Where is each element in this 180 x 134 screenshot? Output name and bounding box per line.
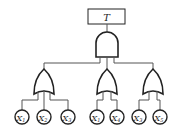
leaf-node: X1 <box>15 110 29 124</box>
leaf-node: X5 <box>153 110 167 124</box>
leaf-node: X2 <box>37 110 51 124</box>
leaf-node: X3 <box>61 110 75 124</box>
fault-tree-diagram: T X1 X2 X3 X1 <box>0 0 180 134</box>
leaf-node: X1 <box>90 110 104 124</box>
or-gate-middle <box>97 69 117 94</box>
or-gate-legs <box>22 90 160 110</box>
and-gate-icon <box>96 32 118 57</box>
or-gate-icon <box>143 69 163 94</box>
leaf-node: X3 <box>132 110 146 124</box>
and-gate-legs <box>44 57 153 70</box>
or-gate-icon <box>97 69 117 94</box>
or-gate-right <box>143 69 163 94</box>
top-event: T <box>88 9 125 24</box>
leaf-node: X4 <box>110 110 124 124</box>
